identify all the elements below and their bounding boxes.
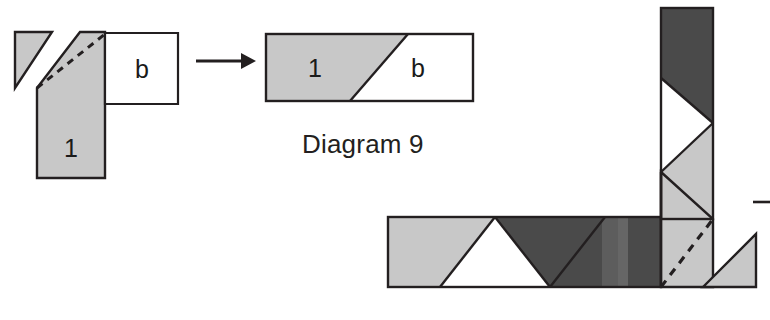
result-piece-b-label: b [411,54,425,82]
scan-streak-artifact-2 [618,218,628,287]
figure-caption: Diagram 9 [302,129,424,159]
diagram-figure-root: 1 b 1 b Diagram 9 [0,0,770,320]
right-result-group: 1 b [266,34,473,101]
result-piece-one-label: 1 [308,54,322,82]
left-piece-b-label: b [135,55,149,83]
transform-arrow [196,53,256,69]
left-piece-one-label: 1 [64,134,78,162]
arrow-head [241,53,256,69]
scan-streak-artifact [602,218,618,287]
diagram-canvas: 1 b 1 b Diagram 9 [0,0,770,320]
left-figure-group: 1 b [15,32,178,178]
